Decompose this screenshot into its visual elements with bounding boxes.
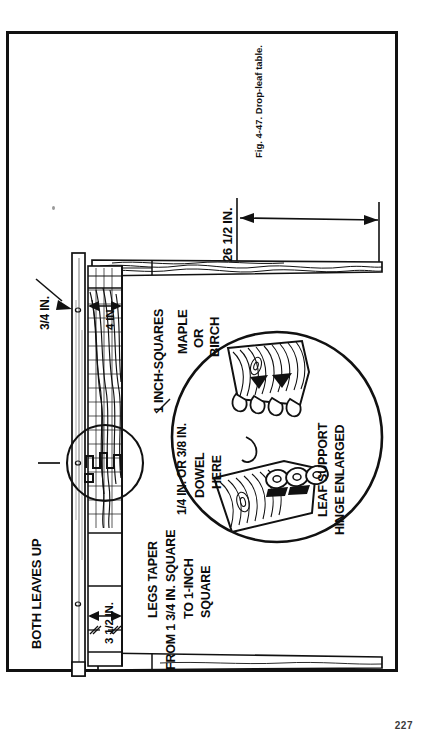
scan-speck xyxy=(52,206,55,210)
note-leaf-support: LEAF SUPPORT xyxy=(317,423,330,517)
note-dowel-word: DOWEL xyxy=(194,452,207,498)
note-hinge-enlarged: HINGE ENLARGED xyxy=(334,425,347,535)
note-legs-taper: LEGS TAPER xyxy=(147,541,160,618)
figure-caption: Fig. 4-47. Drop-leaf table. xyxy=(253,45,264,158)
dimension-label-top-thickness: 3/4 IN. xyxy=(39,296,51,330)
dimension-label-apron-width: 4 IN. xyxy=(105,307,117,330)
page-number: 227 xyxy=(395,720,413,729)
note-dowel-here: HERE xyxy=(211,455,224,489)
note-both-leaves-up: BOTH LEAVES UP xyxy=(30,539,43,649)
note-material-maple: MAPLE xyxy=(176,309,189,354)
dimension-label-width: 26 1/2 IN. xyxy=(221,208,234,262)
note-taper-square: SQUARE xyxy=(200,566,213,618)
note-taper-from: FROM 1 3/4 IN. SQUARE xyxy=(165,530,178,670)
note-taper-to: TO 1-INCH xyxy=(183,559,196,619)
note-dowel-size: 1/4 IN. OR 3/8 IN. xyxy=(176,423,188,515)
note-material-or: OR xyxy=(192,329,205,348)
note-one-inch-squares: 1 INCH-SQUARES xyxy=(153,309,166,413)
note-material-birch: BIRCH xyxy=(208,317,221,357)
dimension-label-leg-height: 3 1/2 IN. xyxy=(104,602,116,644)
